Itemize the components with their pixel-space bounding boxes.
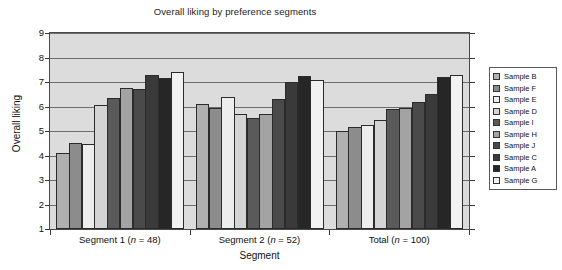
legend-item[interactable]: Sample B: [493, 71, 553, 83]
y-axis-tick-mark-right: [470, 131, 475, 132]
bar[interactable]: [361, 125, 374, 229]
legend-swatch-icon: [493, 142, 500, 149]
bar[interactable]: [399, 108, 412, 229]
legend-item[interactable]: Sample A: [493, 163, 553, 175]
y-axis-title: Overall liking: [11, 84, 22, 164]
y-axis-tick-mark-right: [470, 180, 475, 181]
legend-item[interactable]: Sample G: [493, 175, 553, 187]
bar[interactable]: [171, 72, 184, 229]
y-axis-tick-label: 8: [22, 52, 44, 63]
legend-item-label: Sample I: [504, 119, 534, 127]
x-axis-tick-mark: [469, 230, 470, 235]
legend-swatch-icon: [493, 119, 500, 126]
y-axis-tick-mark-right: [470, 82, 475, 83]
y-axis-tick-mark-right: [470, 229, 475, 230]
bar[interactable]: [285, 82, 298, 229]
x-axis-category-label: Segment 2 (n = 52): [190, 234, 330, 245]
bar[interactable]: [196, 104, 209, 229]
legend[interactable]: Sample BSample FSample ESample DSample I…: [489, 67, 557, 190]
y-axis-tick-label: 3: [22, 174, 44, 185]
legend-item[interactable]: Sample D: [493, 106, 553, 118]
legend-item-label: Sample B: [504, 73, 537, 81]
legend-swatch-icon: [493, 85, 500, 92]
y-axis-tick-label: 4: [22, 150, 44, 161]
bar[interactable]: [209, 108, 222, 229]
x-axis-title: Segment: [49, 250, 470, 261]
legend-swatch-icon: [493, 177, 500, 184]
legend-item-label: Sample D: [504, 108, 537, 116]
bar[interactable]: [259, 114, 272, 229]
chart-title: Overall liking by preference segments: [0, 6, 470, 17]
bar[interactable]: [386, 109, 399, 229]
bar[interactable]: [310, 80, 323, 229]
bar[interactable]: [133, 89, 146, 229]
legend-swatch-icon: [493, 131, 500, 138]
legend-item-label: Sample J: [504, 142, 535, 150]
legend-item-label: Sample F: [504, 85, 536, 93]
x-axis-category-label: Segment 1 (n = 48): [50, 234, 190, 245]
y-axis-tick-label: 9: [22, 27, 44, 38]
bar[interactable]: [348, 127, 361, 229]
legend-item[interactable]: Sample I: [493, 117, 553, 129]
legend-swatch-icon: [493, 108, 500, 115]
bar[interactable]: [94, 105, 107, 229]
legend-swatch-icon: [493, 154, 500, 161]
legend-item-label: Sample A: [504, 165, 536, 173]
legend-swatch-icon: [493, 165, 500, 172]
x-axis-category-label: Total (n = 100): [329, 234, 469, 245]
bar[interactable]: [120, 88, 133, 229]
legend-swatch-icon: [493, 73, 500, 80]
bar[interactable]: [247, 118, 260, 229]
legend-item-label: Sample C: [504, 154, 537, 162]
y-axis-tick-mark-right: [470, 33, 475, 34]
bar[interactable]: [221, 97, 234, 229]
y-axis-tick-mark-right: [470, 58, 475, 59]
bar[interactable]: [69, 143, 82, 229]
legend-item-label: Sample H: [504, 131, 537, 139]
bar[interactable]: [107, 98, 120, 229]
y-axis-tick-mark-right: [470, 205, 475, 206]
y-axis-tick-mark-right: [470, 156, 475, 157]
bar[interactable]: [145, 75, 158, 229]
legend-item-label: Sample G: [504, 177, 537, 185]
bar-group: [50, 33, 190, 229]
bar-group: [190, 33, 330, 229]
bar[interactable]: [336, 131, 349, 229]
bar[interactable]: [425, 94, 438, 229]
y-axis-tick-label: 5: [22, 125, 44, 136]
legend-item[interactable]: Sample E: [493, 94, 553, 106]
bar[interactable]: [298, 76, 311, 229]
bar[interactable]: [437, 77, 450, 229]
bar[interactable]: [412, 102, 425, 229]
legend-item[interactable]: Sample H: [493, 129, 553, 141]
bar[interactable]: [158, 78, 171, 229]
y-axis-tick-label: 2: [22, 199, 44, 210]
chart-root: Overall liking by preference segments Ov…: [0, 0, 562, 270]
legend-swatch-icon: [493, 96, 500, 103]
legend-item-label: Sample E: [504, 96, 537, 104]
bar-group: [329, 33, 469, 229]
legend-item[interactable]: Sample J: [493, 140, 553, 152]
y-axis-tick-mark-right: [470, 107, 475, 108]
bar[interactable]: [56, 153, 69, 229]
bar[interactable]: [450, 75, 463, 229]
bar[interactable]: [82, 144, 95, 229]
y-axis-tick-label: 7: [22, 76, 44, 87]
bar[interactable]: [272, 99, 285, 229]
bar[interactable]: [234, 114, 247, 229]
legend-item[interactable]: Sample F: [493, 83, 553, 95]
bar[interactable]: [374, 120, 387, 229]
bars-layer: [50, 33, 469, 229]
y-axis-tick-label: 6: [22, 101, 44, 112]
legend-item[interactable]: Sample C: [493, 152, 553, 164]
y-axis-tick-label: 1: [22, 223, 44, 234]
